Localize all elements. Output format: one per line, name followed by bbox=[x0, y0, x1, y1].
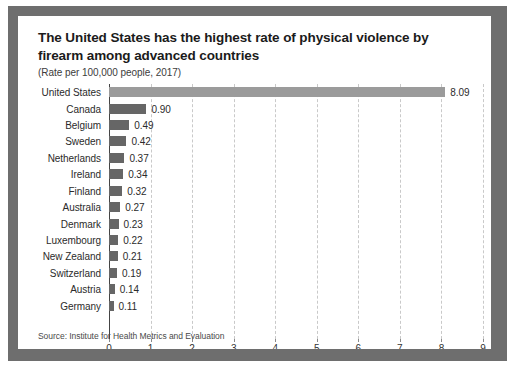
bar-track: 0.23 bbox=[109, 215, 483, 231]
bar-row: Finland0.32 bbox=[18, 183, 491, 199]
bar-row: Denmark0.23 bbox=[18, 215, 491, 231]
chart-card: The United States has the highest rate o… bbox=[18, 16, 491, 349]
tick-mark-3 bbox=[234, 339, 235, 342]
bar[interactable] bbox=[109, 284, 115, 294]
tick-label-7: 7 bbox=[397, 343, 403, 349]
bar-value-label: 0.34 bbox=[128, 169, 147, 180]
bar-row: Sweden0.42 bbox=[18, 133, 491, 149]
bar-row: United States8.09 bbox=[18, 84, 491, 100]
bar-row: Netherlands0.37 bbox=[18, 150, 491, 166]
bar-value-label: 0.19 bbox=[122, 267, 141, 278]
bar[interactable] bbox=[109, 136, 126, 146]
bars-container: United States8.09Canada0.90Belgium0.49Sw… bbox=[18, 84, 491, 314]
bar[interactable] bbox=[109, 153, 124, 163]
category-label: New Zealand bbox=[18, 251, 101, 262]
tick-label-6: 6 bbox=[356, 343, 362, 349]
bar-value-label: 0.37 bbox=[129, 152, 148, 163]
category-label: Australia bbox=[18, 202, 101, 213]
bar-value-label: 0.42 bbox=[131, 136, 150, 147]
bar-track: 0.42 bbox=[109, 133, 483, 149]
category-label: Netherlands bbox=[18, 152, 101, 163]
tick-label-4: 4 bbox=[272, 343, 278, 349]
category-label: Luxembourg bbox=[18, 235, 101, 246]
category-label: Ireland bbox=[18, 169, 101, 180]
bar-track: 8.09 bbox=[109, 84, 483, 100]
tick-mark-5 bbox=[317, 339, 318, 342]
bar[interactable] bbox=[109, 301, 114, 311]
bar[interactable] bbox=[109, 219, 119, 229]
chart-title: The United States has the highest rate o… bbox=[38, 29, 438, 64]
bar-track: 0.21 bbox=[109, 248, 483, 264]
category-label: Denmark bbox=[18, 218, 101, 229]
bar-track: 0.11 bbox=[109, 297, 483, 313]
tick-label-3: 3 bbox=[231, 343, 237, 349]
bar-row: Canada0.90 bbox=[18, 100, 491, 116]
bar[interactable] bbox=[109, 169, 123, 179]
bar-track: 0.37 bbox=[109, 150, 483, 166]
bar-row: Luxembourg0.22 bbox=[18, 232, 491, 248]
bar-value-label: 0.22 bbox=[123, 235, 142, 246]
bar[interactable] bbox=[109, 268, 117, 278]
category-label: Switzerland bbox=[18, 267, 101, 278]
bar-row: Switzerland0.19 bbox=[18, 265, 491, 281]
bar-track: 0.34 bbox=[109, 166, 483, 182]
category-label: Sweden bbox=[18, 136, 101, 147]
bar-value-label: 0.11 bbox=[119, 300, 138, 311]
bar-value-label: 0.49 bbox=[134, 120, 153, 131]
bar-track: 0.90 bbox=[109, 100, 483, 116]
category-label: Finland bbox=[18, 185, 101, 196]
category-label: Canada bbox=[18, 103, 101, 114]
bar-track: 0.14 bbox=[109, 281, 483, 297]
tick-label-9: 9 bbox=[480, 343, 486, 349]
tick-mark-8 bbox=[441, 339, 442, 342]
bar-track: 0.32 bbox=[109, 183, 483, 199]
bar-value-label: 0.21 bbox=[123, 251, 142, 262]
bar-value-label: 0.32 bbox=[127, 185, 146, 196]
tick-mark-9 bbox=[483, 339, 484, 342]
bar-track: 0.49 bbox=[109, 117, 483, 133]
category-label: United States bbox=[18, 87, 101, 98]
bar[interactable] bbox=[109, 87, 445, 97]
bar[interactable] bbox=[109, 202, 120, 212]
tick-mark-6 bbox=[358, 339, 359, 342]
tick-label-8: 8 bbox=[439, 343, 445, 349]
plot-area: United States8.09Canada0.90Belgium0.49Sw… bbox=[18, 84, 491, 339]
source-note: Source: Institute for Health Metrics and… bbox=[38, 331, 224, 341]
category-label: Belgium bbox=[18, 120, 101, 131]
bar[interactable] bbox=[109, 186, 122, 196]
bar[interactable] bbox=[109, 104, 146, 114]
bar-value-label: 0.90 bbox=[151, 103, 170, 114]
bar-row: Australia0.27 bbox=[18, 199, 491, 215]
tick-label-5: 5 bbox=[314, 343, 320, 349]
tick-mark-7 bbox=[400, 339, 401, 342]
tick-label-1: 1 bbox=[148, 343, 154, 349]
bar-row: Ireland0.34 bbox=[18, 166, 491, 182]
tick-label-0: 0 bbox=[106, 343, 112, 349]
figure-border: The United States has the highest rate o… bbox=[8, 6, 507, 361]
bar[interactable] bbox=[109, 251, 118, 261]
bar-row: Germany0.11 bbox=[18, 297, 491, 313]
bar-track: 0.22 bbox=[109, 232, 483, 248]
bar-value-label: 8.09 bbox=[450, 87, 469, 98]
category-label: Austria bbox=[18, 284, 101, 295]
bar-track: 0.27 bbox=[109, 199, 483, 215]
bar[interactable] bbox=[109, 120, 129, 130]
bar-track: 0.19 bbox=[109, 265, 483, 281]
bar-value-label: 0.23 bbox=[124, 218, 143, 229]
bar-value-label: 0.27 bbox=[125, 202, 144, 213]
bar-row: New Zealand0.21 bbox=[18, 248, 491, 264]
chart-subtitle: (Rate per 100,000 people, 2017) bbox=[38, 67, 181, 78]
category-label: Germany bbox=[18, 300, 101, 311]
tick-label-2: 2 bbox=[189, 343, 195, 349]
bar-row: Austria0.14 bbox=[18, 281, 491, 297]
bar-row: Belgium0.49 bbox=[18, 117, 491, 133]
tick-mark-4 bbox=[275, 339, 276, 342]
bar[interactable] bbox=[109, 235, 118, 245]
bar-value-label: 0.14 bbox=[120, 284, 139, 295]
